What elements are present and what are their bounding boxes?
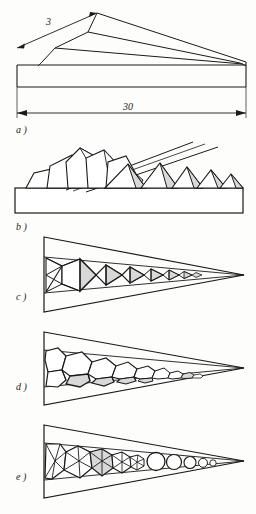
panel-label-d: d ) [16, 381, 28, 393]
dimension-30-group: 30 [17, 87, 246, 118]
panel-label-b: b ) [16, 221, 28, 233]
panel-d-grains [45, 348, 203, 387]
panel-label-e: e ) [16, 471, 27, 483]
wedge-slab-body [17, 62, 246, 87]
panel-label-a: a ) [16, 124, 28, 136]
figure-root: 3 30 a ) [0, 0, 256, 514]
dimension-3-group: 3 [17, 12, 97, 49]
wedge-top-face [38, 13, 246, 66]
small-pyramid-crystals-right [105, 163, 243, 188]
panel-a-group: 3 30 a ) [16, 12, 246, 136]
dimension-3-label: 3 [45, 16, 51, 27]
panel-label-c: c ) [16, 291, 27, 303]
panel-e-group: e ) [16, 425, 244, 498]
panel-d-group: d ) [16, 332, 244, 405]
dimension-30-label: 30 [122, 101, 133, 112]
substrate-slab [15, 188, 243, 213]
panel-e-faceted-grains [45, 444, 144, 479]
panel-b-group: b ) [15, 142, 243, 233]
panel-c-group: c ) [16, 237, 244, 312]
